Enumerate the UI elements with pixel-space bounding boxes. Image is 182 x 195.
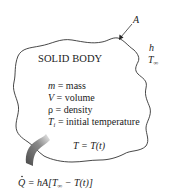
property-mass: m = mass <box>48 80 86 92</box>
property-initial-temperature: Ti = initial temperature <box>48 116 140 131</box>
property-density: ρ = density <box>48 104 93 116</box>
heat-rate-equation: Q = hA[T∞ − T(t)] <box>18 177 93 192</box>
ambient-temperature-label: T∞ <box>148 54 158 69</box>
heat-rate-rhs-prefix: = hA[T <box>25 177 57 188</box>
property-text: = density <box>53 104 93 115</box>
property-text: = volume <box>54 92 95 103</box>
property-text: = initial temperature <box>55 116 139 127</box>
temperature-function: T = T(t) <box>73 140 105 152</box>
heat-flow-arrow <box>26 134 50 166</box>
heat-rate-rhs-suffix: − T(t)] <box>62 177 93 188</box>
ambient-T-sub: ∞ <box>154 59 159 66</box>
convection-coefficient-label: h <box>149 42 154 54</box>
body-label: SOLID BODY <box>38 53 102 65</box>
property-text: = mass <box>55 80 86 91</box>
surface-area-label: A <box>133 14 139 26</box>
property-volume: V = volume <box>48 92 95 104</box>
surface-arrow-line <box>121 24 132 37</box>
